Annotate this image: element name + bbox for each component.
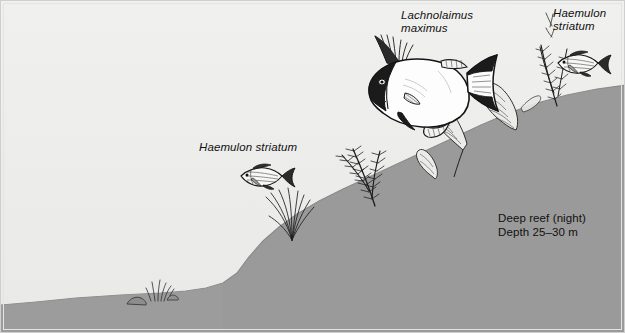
grunt-mid-tail xyxy=(282,168,295,187)
grunt-right-eye xyxy=(563,61,566,64)
hogfish-lachnolaimus-maximus xyxy=(369,35,498,137)
reef-slope-substrate xyxy=(1,85,625,333)
reef-illustration xyxy=(1,1,625,333)
habitat-depth-caption: Deep reef (night) Depth 25–30 m xyxy=(498,211,586,239)
hogfish-pupil xyxy=(380,80,383,83)
grunt-right-anal-fin xyxy=(580,72,591,76)
grunt-right-tail xyxy=(598,55,611,74)
grunt-haemulon-striatum-middle xyxy=(241,164,295,189)
species-label-haemulon-striatum-middle: Haemulon striatum xyxy=(199,141,297,154)
species-label-lachnolaimus-maximus: Lachnolaimus maximus xyxy=(401,9,473,34)
hogfish-soft-dorsal-fin xyxy=(441,60,467,69)
grunt-mid-eye xyxy=(246,174,249,177)
species-label-haemulon-striatum-right: Haemulon striatum xyxy=(553,7,606,32)
shelf-shading xyxy=(1,283,223,333)
grunt-mid-anal-fin xyxy=(263,185,274,189)
reef-scene-figure: Lachnolaimus maximus Haemulon striatum H… xyxy=(0,0,625,333)
